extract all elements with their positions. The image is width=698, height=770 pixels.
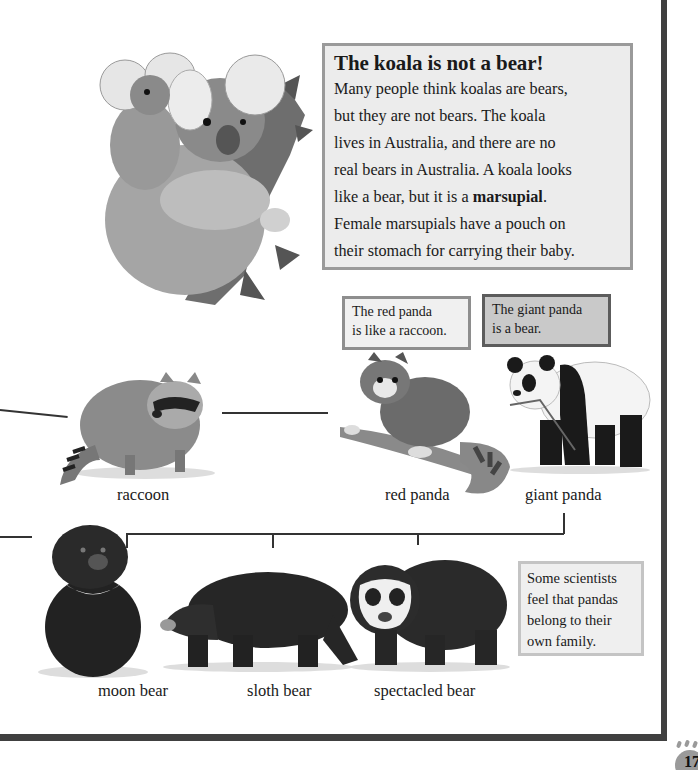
caption-line: belong to their	[527, 610, 635, 631]
koala-illustration	[95, 45, 315, 315]
spectacled-bear-illustration	[345, 555, 510, 675]
moon-bear-illustration	[38, 522, 148, 682]
info-line: like a bear, but it is a marsupial.	[334, 184, 622, 211]
tree-line-giant-panda-drop	[563, 513, 565, 534]
tree-line-spectacled-bear-drop	[417, 533, 419, 545]
paw-toe-icon	[692, 741, 698, 749]
caption-line: The giant panda	[492, 300, 601, 319]
koala-info-box: The koala is not a bear! Many people thi…	[322, 43, 633, 270]
caption-line: own family.	[527, 631, 635, 652]
red-panda-label: red panda	[385, 485, 450, 505]
page-frame-bottom-border	[0, 734, 667, 741]
caption-line: feel that pandas	[527, 589, 635, 610]
info-line: their stomach for carrying their baby.	[334, 238, 622, 265]
paw-toe-icon	[684, 740, 690, 748]
sloth-bear-illustration	[158, 565, 363, 675]
giant-panda-illustration	[505, 355, 655, 475]
moon-bear-label: moon bear	[98, 681, 168, 701]
tree-line-raccoon-right	[222, 412, 328, 414]
spectacled-bear-label: spectacled bear	[374, 681, 475, 701]
caption-line: is a bear.	[492, 319, 601, 338]
caption-line: The red panda	[352, 302, 461, 321]
red-panda-caption-box: The red panda is like a raccoon.	[342, 296, 471, 350]
scientists-caption-box: Some scientists feel that pandas belong …	[518, 561, 644, 656]
tree-line-bears-horizontal	[126, 533, 564, 535]
red-panda-illustration	[340, 352, 520, 502]
info-line: real bears in Australia. A koala looks	[334, 157, 622, 184]
sloth-bear-label: sloth bear	[247, 681, 312, 701]
caption-line: is like a raccoon.	[352, 321, 461, 340]
info-text: .	[543, 188, 547, 206]
page-frame-right-border	[661, 0, 667, 741]
info-line: lives in Australia, and there are no	[334, 130, 622, 157]
tree-line-bears-left	[0, 536, 32, 538]
info-line: Many people think koalas are bears,	[334, 76, 622, 103]
info-text: like a bear, but it is a	[334, 188, 473, 206]
raccoon-illustration	[55, 370, 220, 490]
tree-line-sloth-bear-drop	[272, 533, 274, 548]
marsupial-term: marsupial	[473, 188, 543, 206]
info-box-title: The koala is not a bear!	[334, 50, 622, 76]
info-line: Female marsupials have a pouch on	[334, 211, 622, 238]
paw-toe-icon	[676, 741, 682, 749]
giant-panda-caption-box: The giant panda is a bear.	[482, 294, 611, 347]
caption-line: Some scientists	[527, 568, 635, 589]
page-number: 17	[684, 753, 698, 770]
giant-panda-label: giant panda	[525, 485, 602, 505]
raccoon-label: raccoon	[117, 485, 169, 505]
info-box-body: Many people think koalas are bears, but …	[334, 76, 622, 265]
info-line: but they are not bears. The koala	[334, 103, 622, 130]
